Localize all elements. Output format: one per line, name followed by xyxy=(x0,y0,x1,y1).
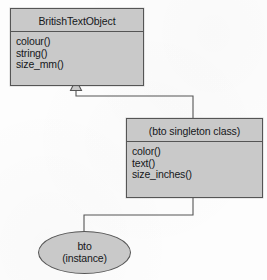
class-members-parent: colour() string() size_mm() xyxy=(11,32,143,71)
class-name-singleton: (bto singleton class) xyxy=(127,119,262,142)
generalization-connector xyxy=(76,90,193,118)
class-member: color() xyxy=(132,146,262,158)
class-box-british-text-object[interactable]: BritishTextObject colour() string() size… xyxy=(10,8,144,86)
instance-connector xyxy=(84,198,193,233)
class-name-parent: BritishTextObject xyxy=(11,9,143,32)
class-member: colour() xyxy=(16,36,143,48)
class-member: size_inches() xyxy=(132,169,262,181)
class-member: size_mm() xyxy=(16,59,143,71)
class-box-bto-singleton[interactable]: (bto singleton class) color() text() siz… xyxy=(126,118,263,198)
uml-class-diagram: BritishTextObject colour() string() size… xyxy=(0,0,267,280)
instance-name: bto xyxy=(77,241,91,253)
class-members-singleton: color() text() size_inches() xyxy=(127,142,262,181)
instance-stereotype: (instance) xyxy=(62,253,107,265)
instance-node-bto[interactable]: bto (instance) xyxy=(38,231,131,274)
